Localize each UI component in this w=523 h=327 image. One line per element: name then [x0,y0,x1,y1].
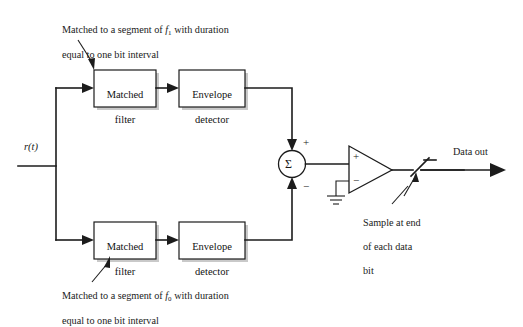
matched-filter-top-label-line2: filter [94,114,156,126]
bottom-branch-input-wire [56,235,94,245]
input-signal-label: r(t) [24,141,38,153]
envelope-detector-bottom-label: Envelope detector [179,229,245,290]
comparator-minus-input-sign: − [353,174,359,187]
input-signal-wire [18,88,56,240]
envelope-detector-top-label-line2: detector [179,114,245,126]
summing-minus-sign: − [303,180,309,193]
matched-filter-bottom-label-line1: Matched [94,241,156,253]
sampling-switch[interactable] [404,158,464,196]
envelope-detector-bottom-label-line1: Envelope [179,241,245,253]
data-out-label: Data out [453,146,488,158]
bottom-caption-line2: equal to one bit interval [62,315,159,326]
matched-filter-bottom-label-line2: filter [94,266,156,278]
comparator-plus-input-sign: + [353,150,359,163]
bottom-ed-to-sum-wire [245,177,297,240]
matched-filter-top-label-line1: Matched [94,89,156,101]
summing-junction-symbol: Σ [285,157,292,171]
matched-filter-bottom-label: Matched filter [94,229,156,290]
bottom-caption-text-post: with duration [172,290,229,301]
top-caption-line2: equal to one bit interval [62,49,159,60]
sample-note-line2: of each data [363,241,473,253]
summing-junction [279,151,306,178]
envelope-detector-top-label: Envelope detector [179,77,245,138]
matched-filter-top-label: Matched filter [94,77,156,138]
top-caption-text-pre: Matched to a segment of [62,24,165,35]
sample-note-line3: bit [363,265,473,277]
top-caption-text-post: with duration [172,24,229,35]
envelope-detector-bottom-label-line2: detector [179,266,245,278]
data-out-wire [421,163,506,177]
sample-note-pointer-arrow [392,186,408,204]
top-caption: Matched to a segment of f1 with duration… [62,12,312,61]
sample-note-line1: Sample at end [363,217,473,229]
bottom-caption-text-pre: Matched to a segment of [62,290,165,301]
envelope-detector-top-label-line1: Envelope [179,89,245,101]
top-ed-to-sum-wire [245,88,297,151]
ground-connection [327,181,349,204]
top-branch-input-wire [56,83,94,93]
bottom-mf-to-ed-wire [156,235,179,245]
sample-note: Sample at end of each data bit [363,205,473,289]
summing-plus-sign: + [303,136,309,149]
top-mf-to-ed-wire [156,83,179,93]
